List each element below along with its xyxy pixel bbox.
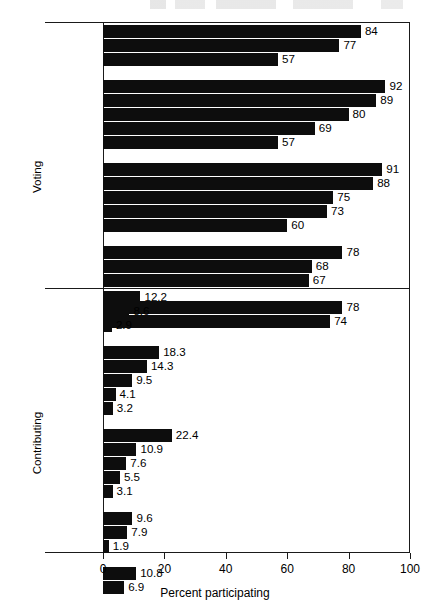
bar xyxy=(103,191,333,204)
bar xyxy=(103,80,385,93)
bar-value-label: 5.5 xyxy=(124,470,140,484)
bar-value-label: 92 xyxy=(389,79,402,93)
x-axis-title: Percent participating xyxy=(0,586,430,600)
bar-value-label: 60 xyxy=(291,218,304,232)
bar xyxy=(103,260,312,273)
bar xyxy=(103,205,327,218)
bar xyxy=(103,540,109,553)
bar xyxy=(103,360,147,373)
bar xyxy=(103,429,172,442)
bar xyxy=(103,471,120,484)
bar-value-label: 88 xyxy=(377,176,390,190)
x-tick-label: 0 xyxy=(83,562,123,576)
x-tick xyxy=(103,553,104,559)
bar-value-label: 10.9 xyxy=(140,442,163,456)
panel-rule-middle xyxy=(45,288,104,289)
bar-value-label: 57 xyxy=(282,52,295,66)
panel-rule-top xyxy=(45,22,104,23)
bar-value-label: 69 xyxy=(319,121,332,135)
x-tick xyxy=(349,553,350,559)
bar xyxy=(103,485,113,498)
x-tick xyxy=(164,553,165,559)
bar-value-label: 77 xyxy=(343,38,356,52)
bar xyxy=(103,443,136,456)
bar xyxy=(103,402,113,415)
bar-value-label: 75 xyxy=(337,190,350,204)
bar-chart-figure: 65+8435-647718-3457Post Grad92Coll Grad8… xyxy=(0,0,430,611)
bar xyxy=(103,25,361,38)
bar-value-label: 84 xyxy=(365,24,378,38)
bar xyxy=(103,177,373,190)
bar-value-label: 3.1 xyxy=(117,484,133,498)
bar-value-label: 1.9 xyxy=(113,539,129,553)
bar xyxy=(103,163,382,176)
bar xyxy=(103,136,278,149)
bar xyxy=(103,39,339,52)
bar-value-label: 57 xyxy=(282,135,295,149)
bar-value-label: 78 xyxy=(346,300,359,314)
bar xyxy=(103,274,309,287)
bar-value-label: 78 xyxy=(346,245,359,259)
bar xyxy=(103,246,342,259)
x-tick xyxy=(226,553,227,559)
bar-value-label: 4.1 xyxy=(120,387,136,401)
bar-value-label: 9.6 xyxy=(136,511,152,525)
x-tick xyxy=(410,553,411,559)
x-tick-label: 100 xyxy=(390,562,430,576)
bar xyxy=(103,388,116,401)
bar xyxy=(103,457,126,470)
bar-value-label: 68 xyxy=(316,259,329,273)
bar-value-label: 7.9 xyxy=(131,525,147,539)
bar xyxy=(103,108,349,121)
bar-value-label: 22.4 xyxy=(176,428,199,442)
panel-title-voting: Voting xyxy=(30,161,43,193)
panel-rule-bottom xyxy=(45,552,104,553)
bar-value-label: 14.3 xyxy=(151,359,174,373)
bar xyxy=(103,374,132,387)
bar-value-label: 2.9 xyxy=(116,318,132,332)
x-tick-label: 60 xyxy=(267,562,307,576)
bar-value-label: 9.5 xyxy=(136,373,152,387)
bar xyxy=(103,94,376,107)
bar-value-label: 74 xyxy=(334,314,347,328)
bar-value-label: 80 xyxy=(353,107,366,121)
x-tick-label: 20 xyxy=(144,562,184,576)
x-tick-label: 80 xyxy=(329,562,369,576)
x-tick xyxy=(287,553,288,559)
panel-title-contributing: Contributing xyxy=(30,412,43,475)
bar-value-label: 18.3 xyxy=(163,345,186,359)
bar xyxy=(103,122,315,135)
bar-value-label: 12.2 xyxy=(144,290,167,304)
bar-value-label: 89 xyxy=(380,93,393,107)
bar xyxy=(103,219,287,232)
bar xyxy=(103,512,132,525)
scan-artifact xyxy=(150,0,425,9)
bar xyxy=(103,319,112,332)
bar xyxy=(103,291,140,304)
bar-value-label: 7.6 xyxy=(130,456,146,470)
bar-value-label: 91 xyxy=(386,162,399,176)
bar xyxy=(103,53,278,66)
bar-value-label: 73 xyxy=(331,204,344,218)
bar xyxy=(103,346,159,359)
bar-value-label: 3.2 xyxy=(117,401,133,415)
panel-divider xyxy=(103,288,410,289)
bar xyxy=(103,305,129,318)
bar-value-label: 67 xyxy=(313,273,326,287)
bar xyxy=(103,526,127,539)
bar-value-label: 8.6 xyxy=(133,304,149,318)
x-tick-label: 40 xyxy=(206,562,246,576)
